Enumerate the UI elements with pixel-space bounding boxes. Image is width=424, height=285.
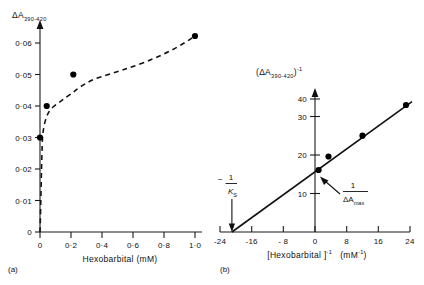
- panel-a-xtick-1: 0·2: [65, 241, 78, 250]
- panel-b-annotation-damax: 1 ΔAmax: [320, 177, 368, 206]
- panel-b-ytick-20: 20: [298, 151, 308, 160]
- annotation-ks-denominator: KS: [228, 187, 237, 198]
- annotation-ks-minus: −: [218, 175, 223, 184]
- panel-b-xtick-24: 24: [405, 237, 415, 246]
- panel-a-ytick-2: 0·02: [15, 165, 32, 174]
- panel-a-ylabel: ΔA390-420: [12, 10, 47, 22]
- annotation-damax-numerator: 1: [351, 181, 356, 190]
- annotation-damax-arrow-shaft: [325, 181, 340, 194]
- panel-a-ytick-1: 0·01: [15, 197, 32, 206]
- panel-a-ytick-4: 0·04: [15, 102, 32, 111]
- panel-a: ΔA390-420 0 0·01 0·02 0·03 0·04 0·05: [0, 0, 212, 285]
- panel-a-xtick-3: 0·6: [127, 241, 140, 250]
- panel-a-xtick-5: 1·0: [189, 241, 202, 250]
- panel-a-xlabel: Hexobarbital (mM): [82, 254, 157, 264]
- panel-b-xlabel: [Hexobarbital ]-1 (mM-1): [267, 249, 367, 260]
- panel-b-datapoint: [403, 102, 409, 108]
- panel-a-xtick-4: 0·8: [158, 241, 171, 250]
- panel-a-datapoint: [192, 33, 198, 39]
- panel-a-datapoint: [37, 134, 43, 140]
- panel-b-ylabel: (ΔA390-420)-1: [256, 66, 302, 79]
- panel-b-xticks: [220, 226, 410, 232]
- panel-a-ytick-0: 0: [27, 228, 32, 237]
- panel-b-ytick-30: 30: [298, 113, 308, 122]
- panel-a-label: (a): [8, 265, 18, 274]
- annotation-ks-numerator: 1: [229, 173, 234, 182]
- panel-b-xtick-8: 8: [344, 237, 349, 246]
- figure-container: ΔA390-420 0 0·01 0·02 0·03 0·04 0·05: [0, 0, 424, 285]
- panel-b-xtick-n8: - 8: [278, 237, 288, 246]
- annotation-damax-denominator: ΔAmax: [343, 195, 364, 206]
- panel-b-datapoint: [359, 133, 365, 139]
- panel-b: (ΔA390-420)-1 10 20 30 40: [212, 0, 424, 285]
- panel-b-plot: (ΔA390-420)-1 10 20 30 40: [212, 0, 424, 285]
- panel-a-xticks: [40, 232, 195, 238]
- panel-a-xtick-2: 0·4: [96, 241, 109, 250]
- annotation-damax-arrow-head: [320, 177, 329, 186]
- panel-b-xtick-16: 16: [374, 237, 384, 246]
- panel-b-ytick-10: 10: [298, 190, 308, 199]
- panel-b-ytick-40: 40: [298, 95, 308, 104]
- panel-a-ytick-5: 0·05: [15, 71, 32, 80]
- panel-a-xtick-0: 0: [38, 241, 43, 250]
- panel-a-ytick-6: 0·06: [15, 39, 32, 48]
- panel-b-yaxis-arrow: [312, 88, 319, 97]
- panel-a-datapoint: [70, 71, 76, 77]
- panel-b-xtick-n24: -24: [214, 237, 227, 246]
- panel-b-fit-line: [232, 102, 412, 232]
- panel-b-datapoint: [325, 153, 331, 159]
- panel-b-label: (b): [220, 265, 230, 274]
- panel-a-plot: ΔA390-420 0 0·01 0·02 0·03 0·04 0·05: [0, 0, 212, 285]
- panel-b-annotation-ks: − 1 KS: [218, 173, 237, 232]
- panel-b-xtick-0: 0: [313, 237, 318, 246]
- panel-a-curve: [40, 36, 195, 232]
- panel-b-xtick-n16: -16: [246, 237, 259, 246]
- panel-a-datapoint: [44, 103, 50, 109]
- panel-b-datapoint: [316, 167, 322, 173]
- panel-a-ytick-3: 0·03: [15, 134, 32, 143]
